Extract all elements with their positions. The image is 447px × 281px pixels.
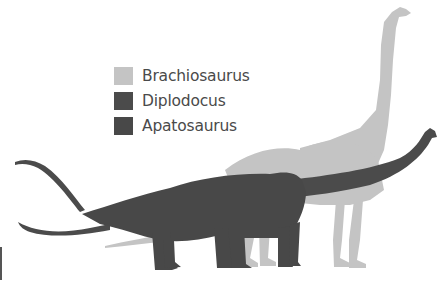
legend-item-diplodocus: Diplodocus xyxy=(114,88,250,113)
legend-swatch-brachiosaurus xyxy=(114,67,133,85)
apatosaurus-silhouette xyxy=(82,172,306,270)
edge-mark xyxy=(0,247,2,280)
legend-label: Brachiosaurus xyxy=(142,67,250,85)
legend-item-brachiosaurus: Brachiosaurus xyxy=(114,63,250,88)
legend-label: Diplodocus xyxy=(142,92,226,110)
legend-label: Apatosaurus xyxy=(142,117,237,135)
legend-swatch-diplodocus xyxy=(114,92,133,110)
legend-item-apatosaurus: Apatosaurus xyxy=(114,113,250,138)
dinosaur-size-comparison xyxy=(0,0,447,281)
legend: Brachiosaurus Diplodocus Apatosaurus xyxy=(114,63,250,138)
legend-swatch-apatosaurus xyxy=(114,117,133,135)
